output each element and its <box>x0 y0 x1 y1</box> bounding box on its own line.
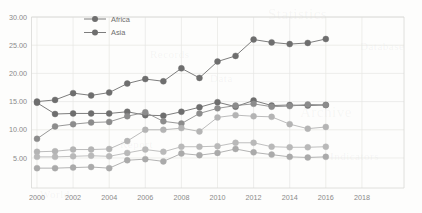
series-data-point <box>88 164 94 170</box>
series-data-point <box>305 101 311 107</box>
y-axis-tick-label: 5.00 <box>13 154 27 163</box>
series-data-point <box>178 65 184 71</box>
x-axis-tick-label: 2012 <box>246 193 262 202</box>
series-data-point <box>305 144 311 150</box>
series-data-point <box>70 90 76 96</box>
chart-legend[interactable]: AfricaAsia <box>84 15 131 38</box>
series-data-point <box>34 136 40 142</box>
line-chart: StatisticsRecordsDataArchiveReportIndica… <box>0 0 422 213</box>
series-data-point <box>160 158 166 164</box>
series-data-point <box>106 153 112 159</box>
series-data-point <box>34 100 40 106</box>
series-data-point <box>233 112 239 118</box>
series-data-point <box>196 75 202 81</box>
series-data-point <box>142 127 148 133</box>
series-data-point <box>196 128 202 134</box>
y-axis-tick-label: 10.00 <box>9 125 27 134</box>
series-data-point <box>196 144 202 150</box>
series-data-point <box>251 149 257 155</box>
series-data-point <box>178 125 184 131</box>
series-data-point <box>88 147 94 153</box>
y-axis-tick-label: 15.00 <box>9 97 27 106</box>
x-axis-tick-label: 2006 <box>137 193 153 202</box>
legend-item[interactable]: Asia <box>84 28 126 37</box>
legend-label: Africa <box>111 15 131 24</box>
series-data-point <box>196 110 202 116</box>
series-data-point <box>70 110 76 116</box>
series-data-point <box>269 152 275 158</box>
legend-marker-icon <box>92 16 98 22</box>
series-data-point <box>124 150 130 156</box>
series-data-point <box>233 146 239 152</box>
series-data-point <box>52 165 58 171</box>
series-data-point <box>215 99 221 105</box>
series-data-point <box>142 147 148 153</box>
series-data-point <box>52 97 58 103</box>
series-data-point <box>34 165 40 171</box>
series-data-point <box>215 59 221 65</box>
series-data-point <box>287 121 293 127</box>
series-data-point <box>233 140 239 146</box>
series-data-point <box>323 144 329 150</box>
y-axis-tick-label: 25.00 <box>9 41 27 50</box>
series-data-point <box>323 36 329 42</box>
series-data-point <box>88 92 94 98</box>
series-data-point <box>124 138 130 144</box>
series-data-point <box>305 40 311 46</box>
series-data-point <box>124 157 130 163</box>
series-data-point <box>142 76 148 82</box>
x-axis-tick-label: 2010 <box>210 193 226 202</box>
x-axis-tick-label: 2008 <box>173 193 189 202</box>
series-data-point <box>160 118 166 124</box>
legend-label: Asia <box>111 28 126 37</box>
series-data-point <box>70 147 76 153</box>
legend-marker-icon <box>92 30 98 36</box>
series-data-point <box>251 101 257 107</box>
series-data-point <box>287 144 293 150</box>
series-data-point <box>106 119 112 125</box>
series-data-point <box>88 153 94 159</box>
series-data-point <box>305 126 311 132</box>
series-data-point <box>233 103 239 109</box>
series-data-point <box>160 149 166 155</box>
series-data-point <box>323 154 329 160</box>
series-data-point <box>287 41 293 47</box>
series-data-point <box>70 153 76 159</box>
series-data-point <box>215 105 221 111</box>
series-data-point <box>287 103 293 109</box>
series-data-point <box>251 140 257 146</box>
series-data-point <box>52 148 58 154</box>
series-data-point <box>287 154 293 160</box>
series-data-point <box>215 143 221 149</box>
series-data-point <box>269 39 275 45</box>
legend-item[interactable]: Africa <box>84 15 131 24</box>
series-data-point <box>52 123 58 129</box>
series-data-point <box>88 110 94 116</box>
series-data-point <box>52 111 58 117</box>
series-data-point <box>178 144 184 150</box>
series-data-point <box>215 114 221 120</box>
series-data-point <box>88 119 94 125</box>
series-data-point <box>124 81 130 87</box>
series-data-point <box>70 165 76 171</box>
series-data-point <box>269 144 275 150</box>
series-data-point <box>142 109 148 115</box>
series-data-point <box>160 113 166 119</box>
x-axis-tick-label: 2016 <box>318 193 334 202</box>
series-data-point <box>323 102 329 108</box>
series-data-point <box>160 78 166 84</box>
series-data-point <box>160 127 166 133</box>
series-data-point <box>106 90 112 96</box>
series-data-point <box>305 154 311 160</box>
series-data-point <box>178 150 184 156</box>
series-data-point <box>124 113 130 119</box>
y-axis-tick-label: 20.00 <box>9 69 27 78</box>
series-data-point <box>106 110 112 116</box>
series-data-point <box>142 156 148 162</box>
series-data-point <box>106 165 112 171</box>
series-data-point <box>323 124 329 130</box>
chart-plot-area: 30.0025.0020.0015.0010.005.00 2000200220… <box>0 0 422 213</box>
x-axis-tick-labels: 2000200220042006200820102012201420162018 <box>29 193 370 202</box>
y-axis-tick-labels: 30.0025.0020.0015.0010.005.00 <box>9 13 27 163</box>
series-data-point <box>251 113 257 119</box>
